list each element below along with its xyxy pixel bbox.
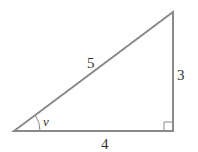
triangle — [14, 12, 173, 131]
right-angle-marker — [164, 122, 173, 131]
horizontal-leg-label: 4 — [101, 136, 109, 152]
angle-label: v — [43, 114, 49, 129]
angle-arc — [35, 115, 40, 131]
triangle-svg: 5 3 4 v — [0, 0, 198, 152]
triangle-diagram: 5 3 4 v — [0, 0, 198, 152]
vertical-leg-label: 3 — [177, 67, 185, 83]
hypotenuse-label: 5 — [87, 55, 95, 71]
